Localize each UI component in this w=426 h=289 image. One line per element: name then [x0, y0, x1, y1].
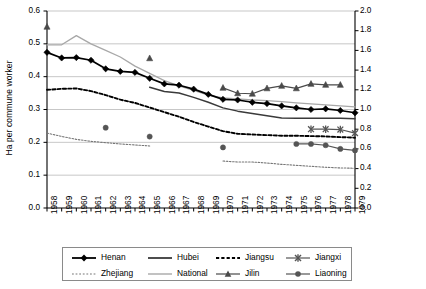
legend-label: Zhejiang: [101, 269, 133, 277]
y-tick-label-right: 1.6: [360, 45, 386, 54]
legend-line-icon: [215, 251, 241, 265]
y-tick-label-left: 0.4: [14, 71, 40, 80]
legend-line-icon: [71, 251, 97, 265]
legend-label: Henan: [101, 253, 126, 261]
legend-swatch-icon: [71, 267, 97, 281]
marker-diamond: [147, 75, 153, 81]
x-tick-label: 1975: [300, 196, 309, 214]
x-tick-label: 1967: [182, 196, 191, 214]
marker-diamond: [117, 68, 123, 74]
legend-swatch-icon: [285, 251, 311, 265]
x-tick-label: 1973: [270, 196, 279, 214]
legend-item-jiangxi[interactable]: Jiangxi: [285, 250, 341, 265]
marker-diamond: [308, 106, 314, 112]
x-tick-label: 1966: [168, 196, 177, 214]
series-line-zhejiang: [223, 161, 355, 168]
y-tick-label-right: 1.2: [360, 84, 386, 93]
legend-item-jilin[interactable]: Jilin: [215, 266, 259, 281]
y-tick-label-left: 0.2: [14, 137, 40, 146]
x-tick-label: 1962: [109, 196, 118, 214]
legend-swatch-icon: [215, 267, 241, 281]
x-tick-label: 1958: [50, 196, 59, 214]
x-tick-label: 1979: [358, 196, 367, 214]
marker-diamond: [205, 91, 211, 97]
series-line-zhejiang: [47, 133, 150, 146]
legend-row: HenanHubeiJiangsuJiangxi: [63, 249, 351, 266]
marker-circle: [308, 141, 313, 146]
x-tick-label: 1968: [197, 196, 206, 214]
marker-circle: [220, 145, 225, 150]
x-tick-label: 1964: [138, 196, 147, 214]
legend-line-icon: [285, 251, 311, 265]
marker-diamond: [337, 107, 343, 113]
legend-item-zhejiang[interactable]: Zhejiang: [71, 266, 133, 281]
y-tick-label-right: 0.4: [360, 163, 386, 172]
legend-line-icon: [285, 267, 311, 281]
legend-line-icon: [147, 251, 173, 265]
marker-diamond: [73, 55, 79, 61]
x-tick-label: 1977: [329, 196, 338, 214]
legend-swatch-icon: [147, 251, 173, 265]
y-tick-label-left: 0.5: [14, 38, 40, 47]
marker-diamond: [132, 69, 138, 75]
marker-diamond: [293, 105, 299, 111]
chart-legend: HenanHubeiJiangsuJiangxi ZhejiangNationa…: [62, 247, 352, 281]
legend-label: Hubei: [177, 253, 199, 261]
legend-item-national[interactable]: National: [147, 266, 208, 281]
y-tick-label-left: 0.3: [14, 104, 40, 113]
legend-swatch-icon: [285, 267, 311, 281]
legend-item-hubei[interactable]: Hubei: [147, 250, 199, 265]
x-tick-label: 1961: [94, 196, 103, 214]
marker-circle: [338, 146, 343, 151]
x-tick-label: 1960: [80, 196, 89, 214]
legend-item-henan[interactable]: Henan: [71, 250, 126, 265]
legend-swatch-icon: [71, 251, 97, 265]
legend-label: Jilin: [245, 269, 259, 277]
marker-diamond: [176, 82, 182, 88]
x-tick-label: 1970: [226, 196, 235, 214]
marker-circle: [294, 141, 299, 146]
marker-diamond: [44, 49, 50, 55]
marker-diamond: [59, 55, 65, 61]
x-tick-label: 1972: [256, 196, 265, 214]
y-tick-label-right: 0.2: [360, 183, 386, 192]
x-tick-label: 1963: [124, 196, 133, 214]
y-tick-label-left: 0.0: [14, 203, 40, 212]
legend-label: Jiangxi: [315, 253, 341, 261]
legend-label: National: [177, 269, 208, 277]
legend-swatch-icon: [147, 267, 173, 281]
marker-diamond: [352, 110, 358, 116]
legend-row: ZhejiangNationalJilinLiaoning: [63, 265, 351, 282]
y-tick-label-right: 1.0: [360, 104, 386, 113]
chart-container: Ha per commune worker Ha per commune wor…: [0, 0, 426, 289]
legend-line-icon: [147, 267, 173, 281]
marker-diamond: [235, 97, 241, 103]
marker-triangle: [279, 83, 285, 89]
x-tick-label: 1976: [314, 196, 323, 214]
x-tick-label: 1974: [285, 196, 294, 214]
marker-circle: [147, 134, 152, 139]
y-tick-label-left: 0.6: [14, 6, 40, 15]
legend-label: Liaoning: [315, 269, 347, 277]
y-axis-left-title: Ha per commune worker: [4, 48, 14, 168]
x-tick-label: 1969: [212, 196, 221, 214]
x-tick-label: 1978: [344, 196, 353, 214]
marker-diamond: [323, 106, 329, 112]
series-line-jiangsu: [47, 88, 355, 137]
marker-circle: [352, 148, 357, 153]
y-tick-label-left: 0.1: [14, 170, 40, 179]
x-tick-label: 1965: [153, 196, 162, 214]
marker-circle: [103, 125, 108, 130]
series-line-national: [47, 36, 355, 107]
y-tick-label-right: 1.8: [360, 25, 386, 34]
legend-label: Jiangsu: [245, 253, 274, 261]
y-tick-label-right: 0.6: [360, 143, 386, 152]
legend-item-liaoning[interactable]: Liaoning: [285, 266, 347, 281]
x-tick-label: 1971: [241, 196, 250, 214]
marker-diamond: [279, 103, 285, 109]
marker-triangle: [44, 23, 50, 29]
series-line-jiangxi: [311, 129, 355, 133]
y-tick-label-right: 1.4: [360, 65, 386, 74]
legend-item-jiangsu[interactable]: Jiangsu: [215, 250, 274, 265]
marker-triangle: [147, 55, 153, 61]
